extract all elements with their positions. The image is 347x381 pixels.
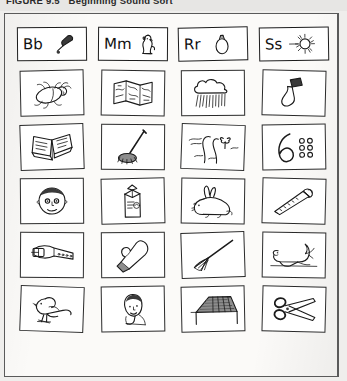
picture-cell-mitten: [96, 232, 170, 278]
picture-cell-road: [176, 124, 250, 170]
figure-title: Beginning Sound Sort: [69, 0, 173, 6]
picture-row-5: [15, 282, 331, 336]
letter-card-ss[interactable]: Ss: [259, 26, 330, 61]
mouse-icon: [131, 29, 164, 59]
picture-card-milk[interactable]: [100, 177, 165, 224]
ring-icon: [201, 28, 245, 59]
letter-label-rr: Rr: [184, 37, 201, 52]
picture-row-3: [15, 174, 331, 228]
scissors-icon: [269, 292, 320, 325]
picture-cell-sock: [257, 70, 331, 116]
man-icon: [112, 290, 153, 329]
picture-card-map[interactable]: [100, 70, 165, 117]
picture-cell-milk: [96, 178, 170, 224]
picture-cell-six: [257, 124, 331, 170]
picture-row-1: [15, 66, 331, 120]
bird-icon: [26, 290, 77, 328]
header-cell-s: Ss: [257, 27, 331, 61]
picture-card-mop[interactable]: [100, 124, 164, 170]
header-row: Bb Mm: [15, 22, 331, 66]
picture-card-roof[interactable]: [181, 285, 246, 332]
letter-label-mm: Mm: [104, 36, 132, 51]
picture-card-belt[interactable]: [20, 232, 84, 278]
picture-card-scissors[interactable]: [261, 285, 326, 333]
map-icon: [109, 76, 156, 111]
picture-card-seal[interactable]: [262, 232, 327, 279]
picture-cell-roof: [176, 286, 250, 332]
picture-cell-seal: [257, 232, 331, 278]
header-cell-m: Mm: [96, 27, 170, 61]
picture-card-boy[interactable]: [20, 178, 84, 225]
boy-icon: [33, 182, 71, 220]
picture-card-road[interactable]: [181, 123, 247, 171]
mitten-icon: [111, 236, 153, 274]
picture-card-mitten[interactable]: [100, 232, 164, 279]
figure-number: FIGURE 9.5: [6, 0, 60, 6]
picture-cell-book: [15, 124, 89, 170]
picture-card-man[interactable]: [100, 286, 165, 333]
picture-card-rain[interactable]: [181, 70, 245, 117]
picture-row-4: [15, 228, 331, 282]
seal-icon: [268, 239, 320, 272]
picture-card-six[interactable]: [262, 124, 327, 171]
picture-cell-rabbit: [176, 178, 250, 224]
worksheet-page: Bb Mm: [4, 13, 339, 377]
letter-card-mm[interactable]: Mm: [98, 27, 168, 61]
picture-cell-bird: [15, 286, 89, 332]
picture-cell-man: [96, 286, 170, 332]
picture-card-saw[interactable]: [261, 177, 326, 225]
picture-row-2: [15, 120, 331, 174]
letter-card-rr[interactable]: Rr: [178, 26, 249, 61]
picture-cell-mop: [96, 124, 170, 170]
rake-icon: [188, 237, 239, 273]
mop-icon: [113, 128, 153, 166]
picture-cell-rain: [176, 70, 250, 116]
figure-caption-bar: FIGURE 9.5 Beginning Sound Sort: [0, 0, 347, 11]
letter-card-bb[interactable]: Bb: [17, 27, 87, 62]
header-cell-r: Rr: [176, 27, 250, 61]
picture-cell-rake: [176, 232, 250, 278]
bell-icon: [43, 29, 83, 59]
picture-card-rabbit[interactable]: [181, 178, 246, 225]
sock-icon: [277, 74, 312, 113]
picture-card-bird[interactable]: [19, 285, 85, 333]
roof-icon: [187, 291, 240, 326]
picture-cell-scissors: [257, 286, 331, 332]
sound-sort-grid: Bb Mm: [15, 22, 331, 372]
picture-cell-bug: [15, 70, 89, 116]
belt-icon: [26, 241, 78, 269]
header-cell-b: Bb: [15, 27, 89, 61]
picture-card-rake[interactable]: [181, 231, 246, 279]
picture-cell-map: [96, 70, 170, 116]
picture-cell-belt: [15, 232, 89, 278]
picture-cell-saw: [257, 178, 331, 224]
six-icon: [270, 129, 319, 166]
letter-label-ss: Ss: [265, 37, 283, 52]
letter-label-bb: Bb: [23, 37, 43, 52]
picture-card-bug[interactable]: [20, 69, 85, 116]
sun-icon: [282, 29, 325, 60]
picture-cell-boy: [15, 178, 89, 224]
book-icon: [27, 129, 76, 164]
picture-card-book[interactable]: [19, 123, 84, 171]
saw-icon: [270, 184, 319, 217]
road-icon: [187, 128, 240, 166]
rabbit-icon: [187, 183, 240, 220]
rain-icon: [189, 75, 237, 111]
milk-icon: [115, 181, 150, 222]
bug-icon: [27, 74, 78, 111]
picture-card-sock[interactable]: [261, 69, 326, 117]
